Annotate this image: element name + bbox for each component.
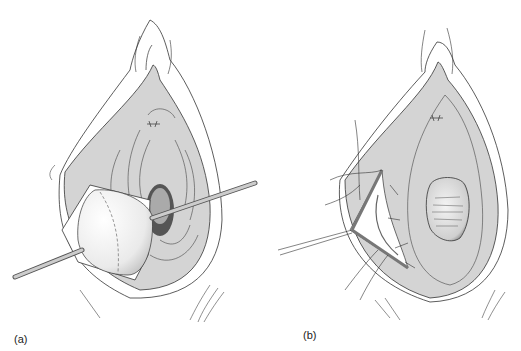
panel-a-label: (a) — [14, 333, 27, 345]
panel-a-illustration — [0, 0, 265, 330]
figure: (a) (b) — [0, 0, 521, 351]
panel-b-label: (b) — [303, 329, 316, 341]
opening — [426, 178, 469, 241]
retractor — [278, 230, 352, 255]
panel-a — [0, 0, 265, 330]
panel-b-illustration — [260, 0, 521, 330]
panel-b — [260, 0, 521, 330]
